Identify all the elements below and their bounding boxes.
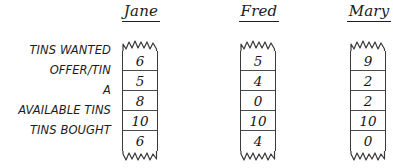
row-label-a: A <box>0 80 116 100</box>
cell-jane-tins-bought: 6 <box>123 131 157 151</box>
column-header-mary-label: Mary <box>347 3 392 22</box>
data-column-jane: 6 5 8 10 6 <box>122 40 158 162</box>
data-cells-mary: 9 2 2 10 0 <box>350 51 386 151</box>
cell-jane-a: 8 <box>123 91 157 111</box>
column-header-jane-label: Jane <box>122 3 160 22</box>
row-label-tins-bought: TINS BOUGHT <box>0 120 116 140</box>
row-label-offer-per-tin: OFFER/TIN <box>0 60 116 80</box>
row-label-tins-wanted: TINS WANTED <box>0 40 116 60</box>
cell-mary-tins-bought: 0 <box>351 131 385 151</box>
cell-mary-a: 2 <box>351 91 385 111</box>
torn-edge-bottom-icon <box>350 151 386 162</box>
cell-fred-tins-bought: 4 <box>241 131 275 151</box>
torn-edge-top-icon <box>350 40 386 51</box>
cell-mary-offer-per-tin: 2 <box>351 71 385 91</box>
column-header-mary: Mary <box>344 2 393 24</box>
torn-edge-bottom-icon <box>122 151 158 162</box>
cell-fred-tins-wanted: 5 <box>241 51 275 71</box>
cell-fred-offer-per-tin: 4 <box>241 71 275 91</box>
torn-edge-top-icon <box>240 40 276 51</box>
data-cells-fred: 5 4 0 10 4 <box>240 51 276 151</box>
cell-fred-available-tins: 10 <box>241 111 275 131</box>
cell-mary-available-tins: 10 <box>351 111 385 131</box>
torn-edge-top-icon <box>122 40 158 51</box>
row-label-column: TINS WANTED OFFER/TIN A AVAILABLE TINS T… <box>0 40 116 140</box>
cell-jane-available-tins: 10 <box>123 111 157 131</box>
data-column-mary: 9 2 2 10 0 <box>350 40 386 162</box>
worksheet-table-figure: Jane Fred Mary TINS WANTED OFFER/TIN A A… <box>0 0 393 168</box>
torn-edge-bottom-icon <box>240 151 276 162</box>
cell-fred-a: 0 <box>241 91 275 111</box>
data-cells-jane: 6 5 8 10 6 <box>122 51 158 151</box>
data-column-fred: 5 4 0 10 4 <box>240 40 276 162</box>
cell-jane-tins-wanted: 6 <box>123 51 157 71</box>
column-header-jane: Jane <box>118 2 164 24</box>
column-header-fred-label: Fred <box>239 3 280 22</box>
row-label-available-tins: AVAILABLE TINS <box>0 100 116 120</box>
cell-jane-offer-per-tin: 5 <box>123 71 157 91</box>
column-header-fred: Fred <box>236 2 282 24</box>
cell-mary-tins-wanted: 9 <box>351 51 385 71</box>
